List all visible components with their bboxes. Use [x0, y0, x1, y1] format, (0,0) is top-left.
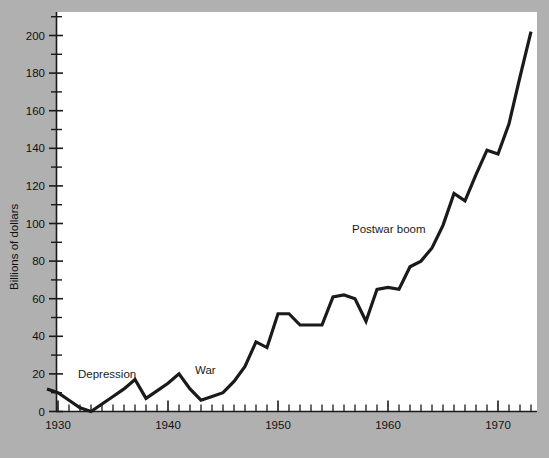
y-tick-label-60: 60: [32, 293, 45, 305]
x-tick-label-1950: 1950: [265, 419, 291, 431]
y-axis-title: Billions of dollars: [8, 203, 20, 290]
x-tick-label-1970: 1970: [485, 419, 511, 431]
y-tick-label-180: 180: [26, 67, 45, 79]
y-tick-label-120: 120: [26, 180, 45, 192]
y-tick-label-200: 200: [26, 30, 45, 42]
plot-area-background: [56, 12, 537, 411]
investment-line-chart: 0 20 40 60 80 100 120 140 160 180 200 Bi…: [0, 0, 549, 458]
y-tick-label-100: 100: [26, 218, 45, 230]
x-tick-label-1930: 1930: [45, 419, 71, 431]
annotation-depression: Depression: [78, 368, 136, 380]
y-tick-label-0: 0: [39, 406, 45, 418]
y-tick-label-20: 20: [32, 368, 45, 380]
chart-figure: 0 20 40 60 80 100 120 140 160 180 200 Bi…: [0, 0, 549, 458]
y-tick-label-160: 160: [26, 105, 45, 117]
annotation-war: War: [195, 364, 216, 376]
x-tick-label-1960: 1960: [375, 419, 401, 431]
y-tick-label-140: 140: [26, 142, 45, 154]
y-tick-label-80: 80: [32, 255, 45, 267]
x-tick-label-1940: 1940: [155, 419, 181, 431]
annotation-postwar-boom: Postwar boom: [352, 223, 426, 235]
y-tick-label-40: 40: [32, 330, 45, 342]
